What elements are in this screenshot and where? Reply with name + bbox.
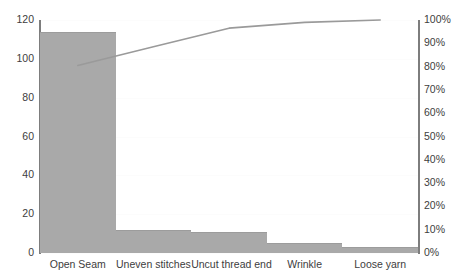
- y-axis-right-tick-label: 100%: [424, 14, 451, 25]
- x-axis-label-open-seam: Open Seam: [40, 258, 116, 270]
- y-axis-right-tick-label: 90%: [424, 37, 445, 48]
- y-axis-left-tick-label: 20: [4, 208, 34, 219]
- y-axis-left-tick-label: 0: [4, 247, 34, 258]
- y-axis-left-tick-label: 120: [4, 14, 34, 25]
- bar-wrinkle: [267, 243, 343, 253]
- y-axis-right-tick-label: 20%: [424, 200, 445, 211]
- y-axis-left-tick-label: 100: [4, 53, 34, 64]
- bar-uncut-thread-end: [191, 232, 267, 253]
- x-axis-label-uneven-stitches: Uneven stitches: [116, 258, 192, 270]
- y-axis-left-tick-label: 80: [4, 92, 34, 103]
- y-axis-right-tick-label: 70%: [424, 84, 445, 95]
- y-axis-right-tick-label: 0%: [424, 247, 439, 258]
- y-axis-right-tick-label: 10%: [424, 224, 445, 235]
- y-axis-left-tick-label: 60: [4, 131, 34, 142]
- x-axis-label-loose-yarn: Loose yarn: [342, 258, 418, 270]
- bar-open-seam: [40, 32, 116, 253]
- y-axis-right-tick-label: 60%: [424, 107, 445, 118]
- bar-uneven-stitches: [116, 230, 192, 253]
- y-axis-right-tick-label: 50%: [424, 131, 445, 142]
- x-axis-label-wrinkle: Wrinkle: [267, 258, 343, 270]
- y-axis-right-tick-label: 40%: [424, 154, 445, 165]
- y-axis-left-tick-label: 40: [4, 169, 34, 180]
- bars-group: [40, 20, 418, 253]
- bar-loose-yarn: [342, 247, 418, 253]
- gridline: [40, 253, 418, 254]
- x-axis-label-uncut-thread-end: Uncut thread end: [191, 258, 267, 270]
- y-axis-right-tick-label: 30%: [424, 177, 445, 188]
- pareto-chart: 020406080100120 0%10%20%30%40%50%60%70%8…: [0, 0, 473, 280]
- y-axis-right: [418, 20, 420, 254]
- y-axis-right-tick-label: 80%: [424, 61, 445, 72]
